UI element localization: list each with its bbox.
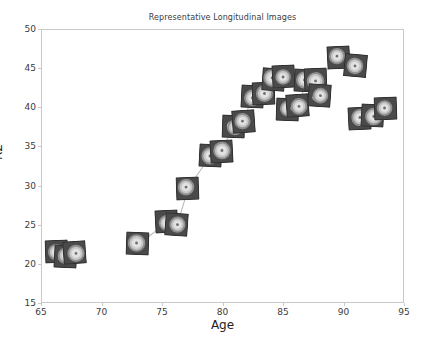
y-tick-label-35: 35 [6,141,36,151]
thumbnail-image [285,93,310,118]
y-tick-label-25: 25 [6,220,36,230]
y-tick-label-30: 30 [6,181,36,191]
data-point-thumbnail[interactable] [209,140,233,164]
data-point-thumbnail[interactable] [63,241,88,266]
chart-root: Representative Longitudinal Images [0,0,435,349]
x-tick-mark-70 [102,303,103,306]
data-point-thumbnail[interactable] [231,109,256,134]
thumbnail-image [231,109,256,134]
x-tick-label-95: 95 [389,307,419,317]
y-tick-mark-50 [38,29,41,30]
plot-area [41,29,404,303]
x-tick-label-65: 65 [26,307,56,317]
x-tick-label-90: 90 [329,307,359,317]
thumbnail-image [343,53,368,78]
thumbnail-image [374,96,398,120]
y-tick-mark-45 [38,68,41,69]
x-tick-mark-95 [404,303,405,306]
x-tick-label-70: 70 [87,307,117,317]
data-point-thumbnail[interactable] [164,212,189,237]
thumbnail-image [271,65,295,89]
x-tick-label-85: 85 [268,307,298,317]
axis-spine-right [403,29,404,303]
x-tick-mark-85 [283,303,284,306]
thumbnail-image [164,212,189,237]
thumbnail-image [176,177,200,201]
data-point-thumbnail[interactable] [374,96,398,120]
data-point-thumbnail[interactable] [285,93,310,118]
y-tick-mark-30 [38,186,41,187]
data-point-thumbnail[interactable] [271,65,295,89]
x-tick-mark-75 [162,303,163,306]
data-point-thumbnail[interactable] [126,232,150,256]
y-tick-mark-40 [38,107,41,108]
data-point-thumbnail[interactable] [343,53,368,78]
x-axis-label: Age [41,318,404,332]
thumbnail-image [307,83,332,108]
x-tick-mark-90 [344,303,345,306]
y-tick-mark-20 [38,264,41,265]
x-tick-label-80: 80 [208,307,238,317]
data-point-thumbnail[interactable] [307,83,332,108]
thumbnail-image [63,241,88,266]
data-point-thumbnail[interactable] [176,177,200,201]
x-tick-label-75: 75 [147,307,177,317]
axis-spine-top [41,29,404,30]
x-tick-mark-65 [41,303,42,306]
y-tick-mark-35 [38,146,41,147]
y-tick-mark-25 [38,225,41,226]
axis-spine-left [41,29,42,303]
y-axis-label: R2 [0,144,5,160]
x-tick-mark-80 [223,303,224,306]
y-tick-label-40: 40 [6,102,36,112]
thumbnail-image [209,140,233,164]
y-tick-label-45: 45 [6,63,36,73]
chart-title: Representative Longitudinal Images [41,13,404,22]
thumbnail-image [126,232,150,256]
y-tick-label-50: 50 [6,24,36,34]
y-tick-label-20: 20 [6,259,36,269]
